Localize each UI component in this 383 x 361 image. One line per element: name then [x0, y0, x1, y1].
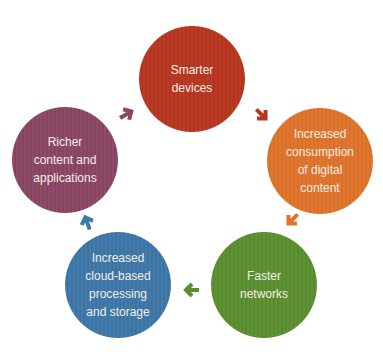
node-label: Richer content and applications — [33, 133, 96, 187]
node-smarter-devices: Smarter devices — [139, 26, 245, 132]
node-cloud-processing: Increased cloud-based processing and sto… — [65, 232, 171, 338]
node-label: Faster networks — [240, 267, 288, 303]
node-richer-content: Richer content and applications — [12, 107, 118, 213]
arrow-down-right-icon — [246, 99, 277, 130]
node-label: Increased consumption of digital content — [286, 125, 354, 197]
arrow-left-icon — [180, 279, 202, 301]
node-label: Increased cloud-based processing and sto… — [85, 249, 150, 321]
arrow-up-right-icon — [112, 99, 142, 129]
node-faster-networks: Faster networks — [211, 232, 317, 338]
node-increased-consumption: Increased consumption of digital content — [267, 108, 373, 214]
arrow-up-left-icon — [73, 208, 101, 236]
node-label: Smarter devices — [171, 61, 214, 97]
clipped-caption — [95, 0, 315, 3]
